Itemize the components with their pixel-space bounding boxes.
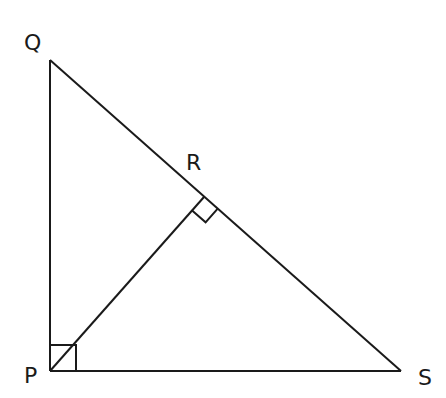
right-angle-marker-r	[192, 209, 217, 222]
label-s: S	[418, 365, 432, 390]
label-r: R	[186, 150, 201, 175]
triangle-diagram: Q R P S	[0, 0, 446, 398]
label-p: P	[24, 363, 37, 388]
segment-qs	[50, 60, 401, 371]
diagram-canvas: Q R P S	[0, 0, 446, 398]
label-q: Q	[24, 30, 41, 55]
